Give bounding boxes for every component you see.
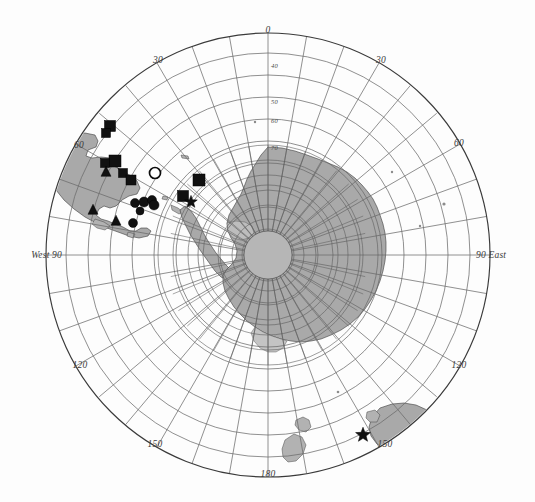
map-marker-filled-square-3	[101, 159, 110, 168]
land-islet-heard	[419, 225, 421, 227]
map-marker-filled-square-2	[109, 155, 121, 167]
meridian-label-150-east: 150	[378, 439, 393, 449]
land-islet-kerguelen	[442, 202, 445, 205]
map-marker-filled-square-16	[193, 174, 205, 186]
land-islet-macquarie	[337, 391, 340, 394]
map-marker-filled-circle-11	[149, 200, 159, 210]
meridian-label-90-east: 90 East	[476, 250, 506, 260]
map-marker-filled-square-1	[102, 129, 111, 138]
map-marker-open-circle-7	[150, 168, 161, 179]
meridian-label-150-west: 150	[148, 439, 163, 449]
latitude-label-60: 60	[271, 117, 278, 124]
map-marker-filled-circle-13	[129, 219, 138, 228]
meridian-label-60-east: 60	[454, 138, 464, 148]
map-marker-filled-star-19	[356, 427, 371, 441]
meridian-label-60-west: 60	[74, 140, 84, 150]
meridian-label-90-west: West 90	[31, 250, 62, 260]
meridian-label-120-west: 120	[73, 360, 88, 370]
polar-map-canvas: 40 50 60 70 0 30 60 90 East 120 150 180 …	[0, 0, 535, 502]
latitude-label-50: 50	[271, 98, 278, 105]
land-new-zealand-north	[295, 417, 311, 432]
latitude-label-70: 70	[271, 144, 278, 151]
map-marker-filled-square-6	[126, 175, 136, 185]
meridian-label-0: 0	[266, 25, 271, 35]
land-islet-crozet	[391, 171, 393, 173]
map-marker-filled-circle-12	[136, 207, 144, 215]
map-marker-filled-circle-9	[131, 199, 140, 208]
meridian-label-180: 180	[261, 469, 276, 479]
polar-map-figure: 40 50 60 70 0 30 60 90 East 120 150 180 …	[0, 0, 535, 502]
pole-disc	[244, 231, 292, 279]
meridian-label-30-west: 30	[152, 55, 163, 65]
land-islet-bouvet	[254, 121, 256, 123]
meridian-label-30-east: 30	[375, 55, 386, 65]
meridian-label-120-east: 120	[452, 360, 467, 370]
latitude-label-40: 40	[271, 62, 278, 69]
map-marker-filled-triangle-15	[111, 215, 121, 225]
